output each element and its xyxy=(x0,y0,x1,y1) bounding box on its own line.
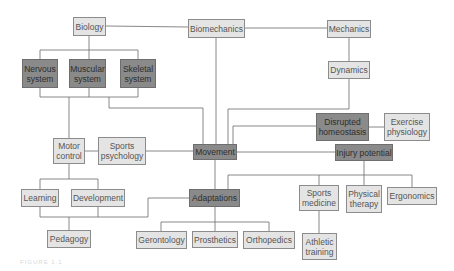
figure-caption: FIGURE 1.1 xyxy=(20,259,63,265)
node-pedagogy: Pedagogy xyxy=(47,230,91,248)
node-mechanics: Mechanics xyxy=(327,20,371,38)
node-muscular-system: Muscular system xyxy=(69,59,106,88)
node-dynamics: Dynamics xyxy=(328,61,370,79)
node-athletic-training: Athletic training xyxy=(302,233,337,260)
node-learning: Learning xyxy=(21,189,59,207)
concept-map: Biology Biomechanics Mechanics Nervous s… xyxy=(0,0,454,271)
node-sports-medicine: Sports medicine xyxy=(299,185,339,211)
node-orthopedics: Orthopedics xyxy=(243,231,295,249)
node-skeletal-system: Skeletal system xyxy=(120,59,156,88)
node-ergonomics: Ergonomics xyxy=(387,187,437,205)
node-nervous-system: Nervous system xyxy=(22,59,58,88)
node-sports-psychology: Sports psychology xyxy=(98,137,146,165)
node-disrupted-homeostasis: Disrupted homeostasis xyxy=(316,113,369,141)
node-biology: Biology xyxy=(73,17,106,36)
node-adaptations: Adaptations xyxy=(189,189,240,207)
node-motor-control: Motor control xyxy=(53,138,85,164)
node-exercise-physiology: Exercise physiology xyxy=(384,113,430,141)
node-gerontology: Gerontology xyxy=(136,231,187,249)
node-injury-potential: Injury potential xyxy=(335,144,393,161)
node-movement: Movement xyxy=(193,144,237,160)
node-biomechanics: Biomechanics xyxy=(188,19,245,38)
node-prosthetics: Prosthetics xyxy=(192,231,238,248)
node-physical-therapy: Physical therapy xyxy=(346,185,382,213)
node-development: Development xyxy=(71,189,125,207)
